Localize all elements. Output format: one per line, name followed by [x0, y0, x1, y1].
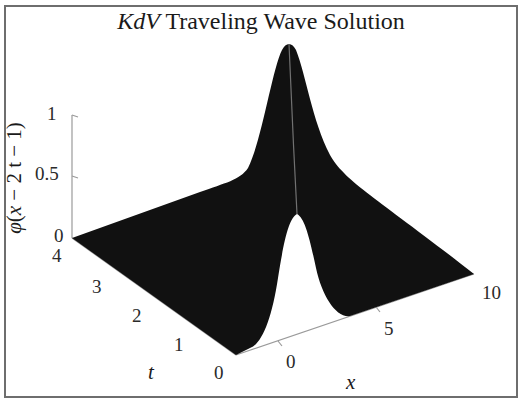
- z-axis-label-open: (: [2, 215, 26, 222]
- x-tick-0: [278, 341, 282, 346]
- z-tick-label-1: 1: [47, 104, 57, 123]
- x-tick-label-10: 10: [482, 283, 501, 302]
- t-tick-label-1: 1: [174, 335, 184, 354]
- x-tick-label-5: 5: [384, 319, 394, 338]
- z-axis-label-phi: φ: [2, 222, 26, 234]
- x-tick-5: [376, 307, 380, 312]
- t-tick-label-4: 4: [52, 246, 62, 265]
- z-tick-label-0-5: 0.5: [35, 164, 59, 183]
- z-tick-label-0: 0: [54, 226, 64, 245]
- t-tick-label-0: 0: [214, 363, 224, 382]
- z-tick-1: [72, 115, 78, 117]
- surface-plot: [0, 0, 522, 404]
- z-tick-0-5: [72, 176, 78, 178]
- t-tick-label-2: 2: [132, 306, 142, 325]
- x-axis-label: x: [346, 372, 355, 393]
- t-tick-label-3: 3: [92, 277, 102, 296]
- x-tick-label-0: 0: [286, 352, 296, 371]
- z-axis-label: φ(x − 2 t − 1): [4, 122, 25, 234]
- t-axis-label: t: [148, 362, 154, 383]
- z-axis-label-x: x: [2, 206, 26, 215]
- z-axis-label-rest: − 2 t − 1): [2, 122, 26, 206]
